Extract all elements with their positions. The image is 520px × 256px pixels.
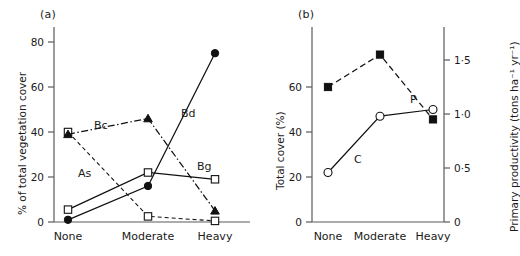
panel-a-series-bc [64, 114, 220, 214]
panel-b-xtick-heavy: Heavy [416, 230, 451, 243]
panel-b-label-c: C [354, 153, 362, 166]
panel-a-xtick-none: None [54, 230, 83, 243]
panel-b: (b) Total cover (%) Primary productivity… [258, 0, 516, 256]
panel-a-series-bd [64, 50, 218, 224]
panel-a-label-as: As [78, 167, 92, 180]
panel-b-y2tick-05: 0·5 [454, 162, 471, 174]
panel-b-label-p: P [410, 93, 417, 106]
panel-b-plot: 0 20 40 60 0 0·5 1·0 1·5 None Mode [258, 0, 516, 256]
panel-b-y-ticks [306, 87, 312, 222]
panel-b-y-tick-labels: 0 20 40 60 [289, 81, 302, 228]
panel-a-label-bg: Bg [197, 160, 212, 173]
panel-a-plot: 0 20 40 60 80 None Moderate Heavy [0, 0, 258, 256]
panel-a-xtick-moderate: Moderate [122, 230, 175, 243]
panel-a-ytick-40: 40 [31, 126, 44, 138]
panel-b-xtick-moderate: Moderate [354, 230, 407, 243]
panel-b-ytick-60: 60 [289, 81, 302, 93]
panel-a: (a) % of total vegetation cover 0 20 40 … [0, 0, 258, 256]
panel-b-y2tick-10: 1·0 [454, 108, 471, 120]
panel-a-ytick-60: 60 [31, 81, 44, 93]
panel-a-ytick-20: 20 [31, 171, 44, 183]
panel-a-y-tick-labels: 0 20 40 60 80 [31, 36, 44, 228]
panel-a-label-bc: Bc [94, 119, 108, 132]
panel-a-ytick-80: 80 [31, 36, 44, 48]
panel-b-x-tick-labels: None Moderate Heavy [314, 230, 451, 243]
panel-b-y2tick-0: 0 [454, 216, 461, 228]
panel-b-y2-ticks [444, 60, 450, 222]
panel-b-xtick-none: None [314, 230, 343, 243]
panel-a-y-ticks [48, 42, 54, 222]
panel-a-x-tick-labels: None Moderate Heavy [54, 230, 233, 243]
panel-b-series-c [324, 106, 437, 177]
panel-b-y2-tick-labels: 0 0·5 1·0 1·5 [454, 54, 471, 228]
panel-b-ytick-20: 20 [289, 171, 302, 183]
panel-a-xtick-heavy: Heavy [198, 230, 233, 243]
panel-b-y2tick-15: 1·5 [454, 54, 471, 66]
panel-b-ytick-40: 40 [289, 126, 302, 138]
panel-b-ytick-0: 0 [295, 216, 302, 228]
panel-a-label-bd: Bd [181, 107, 196, 120]
panel-a-ytick-0: 0 [37, 216, 44, 228]
